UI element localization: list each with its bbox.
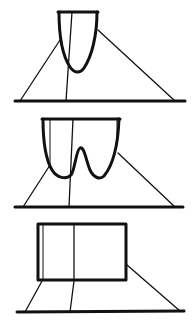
figure-3-rectangle [17, 224, 184, 312]
figure-3-right-diagonal [127, 265, 180, 311]
figure-2-right-diagonal [118, 153, 175, 207]
figure-1-cup-body [59, 12, 97, 72]
figure-2-cup-body [43, 119, 119, 178]
diagram-canvas [0, 0, 195, 328]
figure-3-ground-line [17, 311, 184, 312]
figure-2-w-cup [15, 119, 183, 207]
figure-1-center-line [66, 12, 72, 101]
figure-1-right-diagonal [98, 30, 175, 101]
figure-2-center-line [69, 119, 73, 207]
figure-3-left-diagonal [25, 281, 42, 312]
figure-3-box-outline [38, 224, 126, 280]
figure-2-left-diagonal [23, 165, 50, 207]
figure-1-u-cup [15, 12, 185, 101]
figure-3-center-diagonal [70, 281, 74, 312]
figure-1-left-diagonal [20, 40, 60, 101]
